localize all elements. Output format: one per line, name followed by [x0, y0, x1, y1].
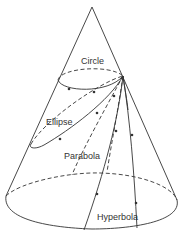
hyperbola-label: Hyperbola — [97, 213, 138, 222]
parabola-label: Parabola — [64, 152, 100, 161]
conic-sections-diagram: Circle Ellipse Parabola Hyperbola — [0, 0, 183, 236]
ellipse-label: Ellipse — [46, 118, 73, 127]
cone-drawing — [0, 0, 183, 236]
circle-label: Circle — [81, 57, 104, 66]
circle-marker — [68, 88, 71, 91]
hyperbola-right-branch — [123, 76, 137, 228]
ellipse-marker — [96, 112, 99, 115]
ellipse-marker — [59, 138, 62, 141]
circle-marker — [113, 95, 116, 98]
circle-back-arc — [58, 69, 123, 80]
circle-marker — [93, 91, 96, 94]
base-back-arc — [6, 173, 177, 200]
hyperbola-marker — [135, 202, 138, 205]
cone-left-side — [6, 7, 92, 196]
circle-front-arc — [58, 76, 123, 89]
hyperbola-marker — [131, 134, 134, 137]
hyperbola-marker — [115, 130, 118, 133]
base-front-arc — [6, 196, 178, 229]
hyperbola-extra-line — [123, 76, 128, 110]
hyperbola-marker — [96, 193, 99, 196]
cone-right-side — [92, 7, 177, 200]
